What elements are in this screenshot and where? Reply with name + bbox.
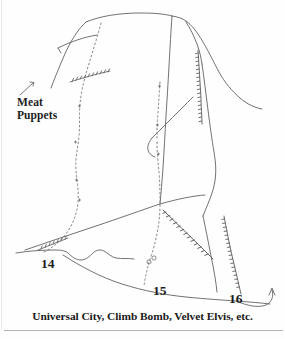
route-15-belay-mark-2 (156, 124, 159, 127)
cliff-topo-drawing (0, 0, 285, 339)
right-base-rock-line (203, 216, 217, 292)
summit-ridge-right-line (172, 16, 186, 21)
summit-ridge-line (86, 13, 172, 22)
route-14-belay-mark-2 (74, 141, 77, 144)
lower-left-hatched-ledge-ticks (41, 236, 66, 249)
meat-puppets-leader-line (20, 83, 33, 95)
figure-bottom-rule (4, 330, 283, 331)
base-talus-line-left (16, 250, 68, 253)
topo-figure: Meat Puppets 14 15 16 Universal City, Cl… (0, 0, 285, 339)
left-flake-tip (58, 48, 61, 53)
main-ledge-line (25, 195, 205, 250)
left-flake-line (58, 35, 97, 48)
route-15-belay-mark-1 (158, 85, 161, 88)
mid-wall-notch-line (148, 138, 155, 157)
annotation-meat-puppets: Meat Puppets (17, 96, 57, 122)
route-line-16-lower-ticked (224, 216, 241, 294)
overhang-roof-line (163, 210, 213, 259)
route-15-ring-2 (152, 256, 156, 260)
route-line-14 (44, 23, 101, 252)
figure-caption: Universal City, Climb Bomb, Velvet Elvis… (0, 310, 285, 322)
route-number-15: 15 (153, 283, 167, 298)
right-wall-edge-line (202, 64, 216, 216)
route-number-14: 14 (41, 256, 55, 271)
central-cliff-edge-line (160, 16, 172, 204)
route-14-belay-mark-1 (78, 105, 81, 108)
overhang-roof-ticks (163, 212, 208, 255)
base-talus-line-mid (68, 250, 134, 260)
annotation-meat-puppets-line2: Puppets (17, 109, 57, 122)
route-line-15-lower (144, 142, 160, 286)
annotation-meat-puppets-line1: Meat (17, 96, 57, 109)
route-number-16: 16 (229, 291, 243, 306)
mid-wall-ramp-line (152, 97, 193, 138)
